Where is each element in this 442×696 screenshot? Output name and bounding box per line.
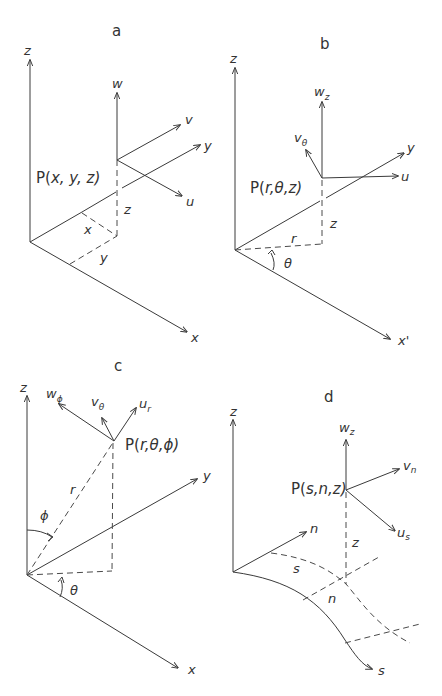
- w-phi-vector: [59, 404, 114, 441]
- u-vector-label: u: [186, 194, 194, 209]
- point-p-label: P(s,n,z): [291, 480, 347, 498]
- x-axis: [30, 242, 187, 332]
- panel-c-spherical: c z x y r ϕ θ wϕ vθ ur P(r,θ,ϕ): [19, 357, 211, 677]
- y-axis-label: y: [202, 468, 211, 483]
- x-axis-label: x: [190, 330, 199, 345]
- n-axis-label: n: [310, 521, 318, 536]
- y-axis-segment-3: [122, 145, 200, 188]
- z-axis-label: z: [19, 380, 28, 395]
- u-vector: [322, 176, 398, 178]
- y-projection-line: [70, 236, 117, 264]
- w-vector-label: w: [112, 76, 123, 91]
- y-axis-segment-1: [30, 212, 82, 242]
- v-vector-label: v: [185, 112, 193, 127]
- panel-d-curvilinear: d z n s s n z wz vn us P(s,n,z): [229, 388, 420, 678]
- theta-arc: [271, 253, 274, 270]
- us-vector: [346, 490, 395, 531]
- panel-d-title: d: [324, 388, 334, 406]
- panel-b-title: b: [320, 35, 330, 53]
- y-axis-label: y: [406, 140, 415, 155]
- v-vector: [117, 125, 180, 160]
- wz-vector-label: wz: [339, 420, 355, 437]
- r-coord-label: r: [291, 231, 298, 246]
- s-curve-axis: [233, 572, 372, 669]
- u-r-vector-label: ur: [139, 396, 152, 414]
- vn-vector-label: vn: [403, 458, 417, 475]
- ground-projection-line: [27, 571, 112, 575]
- panel-a-cartesian: a z x y x y z w v u P(x, y, z): [23, 22, 212, 345]
- coordinate-systems-figure: a z x y x y z w v u P(x, y, z) b z x' y: [0, 0, 442, 696]
- v-theta-vector-label: vθ: [294, 130, 308, 148]
- panel-c-title: c: [114, 357, 122, 375]
- y-coord-label: y: [99, 250, 108, 265]
- phi-coord-label: ϕ: [40, 508, 49, 523]
- z-coord-label: z: [351, 535, 360, 550]
- theta-coord-label: θ: [284, 256, 292, 271]
- point-p-label: P(x, y, z): [36, 169, 100, 187]
- us-vector-label: us: [397, 525, 410, 542]
- panel-a-title: a: [112, 22, 121, 40]
- z-axis-label: z: [229, 404, 238, 419]
- r-coord-label: r: [70, 482, 77, 497]
- s-axis-label: s: [378, 663, 385, 678]
- w-phi-vector-label: wϕ: [46, 386, 63, 404]
- panel-b-cylindrical: b z x' y r θ z wz vθ u P(r,θ,z): [229, 35, 415, 348]
- x-axis: [27, 575, 178, 668]
- n-coordinate-line-2: [345, 624, 420, 643]
- z-coord-label: z: [329, 216, 338, 231]
- z-axis-label: z: [229, 51, 238, 66]
- v-theta-vector-label: vθ: [91, 394, 105, 412]
- y-axis-segment-1: [235, 201, 320, 250]
- phi-arc-arrowhead: [47, 533, 53, 541]
- y-axis-label: y: [203, 138, 212, 153]
- v-theta-vector: [306, 150, 322, 178]
- wz-vector-label: wz: [314, 84, 330, 102]
- y-axis-segment-2: [326, 153, 404, 198]
- theta-arc: [60, 580, 62, 597]
- x-coord-label: x: [83, 222, 92, 237]
- n-coord-label: n: [328, 591, 336, 606]
- theta-coord-label: θ: [70, 583, 78, 598]
- point-p-label: P(r,θ,z): [250, 179, 302, 197]
- s-coordinate-curve: [271, 553, 410, 643]
- y-axis-segment-2: [82, 192, 116, 212]
- z-projection-line: [112, 443, 113, 571]
- u-vector: [117, 160, 182, 196]
- u-vector-label: u: [401, 169, 409, 184]
- z-coord-label: z: [123, 202, 132, 217]
- s-coord-label: s: [293, 561, 300, 576]
- vn-vector: [346, 469, 399, 490]
- r-projection-line: [235, 244, 322, 250]
- x-axis-label: x': [397, 333, 409, 348]
- x-axis: [235, 250, 390, 339]
- x-axis-label: x: [187, 662, 196, 677]
- z-axis-label: z: [23, 43, 32, 58]
- point-p-label: P(r,θ,ϕ): [125, 436, 179, 454]
